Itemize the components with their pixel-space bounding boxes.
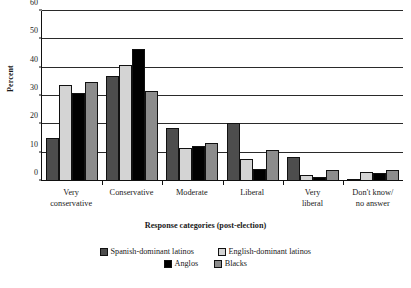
bar bbox=[46, 138, 59, 181]
x-tick-label-line: liberal bbox=[282, 199, 342, 210]
bar bbox=[313, 177, 326, 181]
x-tick-label: Moderate bbox=[162, 188, 222, 209]
bar bbox=[300, 175, 313, 181]
bar bbox=[266, 150, 279, 181]
legend-label: Blacks bbox=[225, 258, 247, 270]
x-tick-label: Veryliberal bbox=[282, 188, 342, 209]
legend-swatch-icon bbox=[100, 248, 108, 256]
bar bbox=[166, 128, 179, 181]
bar bbox=[192, 146, 205, 181]
y-tick-label: 40 bbox=[30, 56, 38, 64]
y-tick-label: 30 bbox=[30, 84, 38, 92]
x-tick-mark bbox=[343, 181, 344, 185]
x-tick-label-line: Don't know/ bbox=[343, 188, 403, 199]
x-axis-title: Response categories (post-election) bbox=[0, 221, 411, 230]
x-tick-label: Conservative bbox=[101, 188, 161, 209]
x-tick-label-line: Conservative bbox=[101, 188, 161, 199]
bar bbox=[373, 173, 386, 182]
bar bbox=[119, 65, 132, 181]
x-tick-label-line: Very bbox=[282, 188, 342, 199]
bar-group bbox=[223, 11, 283, 181]
y-tick-label: 60 bbox=[30, 0, 38, 7]
x-tick-mark bbox=[283, 181, 284, 185]
bar-group bbox=[162, 11, 222, 181]
bar-group bbox=[42, 11, 102, 181]
bar bbox=[132, 49, 145, 181]
legend-swatch-icon bbox=[218, 248, 226, 256]
x-tick-mark bbox=[102, 181, 103, 185]
bar bbox=[386, 170, 399, 181]
legend-item[interactable]: Spanish-dominant latinos bbox=[100, 246, 194, 258]
x-tick-label-line: conservative bbox=[41, 199, 101, 210]
x-tick-label-line: Liberal bbox=[222, 188, 282, 199]
y-tick-label: 50 bbox=[30, 27, 38, 35]
bar bbox=[59, 85, 72, 181]
legend-label: English-dominant latinos bbox=[228, 246, 311, 258]
legend-label: Spanish-dominant latinos bbox=[110, 246, 193, 258]
bar bbox=[85, 82, 98, 181]
bar-group bbox=[102, 11, 162, 181]
bar bbox=[179, 148, 192, 181]
y-tick-label: 20 bbox=[30, 112, 38, 120]
legend-swatch-icon bbox=[214, 260, 222, 268]
bar-group bbox=[343, 11, 403, 181]
y-axis-title: Percent bbox=[6, 49, 15, 109]
x-tick-label: Don't know/no answer bbox=[343, 188, 403, 209]
bar bbox=[347, 179, 360, 181]
bar bbox=[145, 91, 158, 181]
x-tick-mark bbox=[162, 181, 163, 185]
x-tick-label-line: Very bbox=[41, 188, 101, 199]
legend-row-1: Spanish-dominant latinosEnglish-dominant… bbox=[0, 246, 411, 258]
bar-chart-figure: Percent 0102030405060 VeryconservativeCo… bbox=[0, 0, 411, 288]
x-tick-label-line: no answer bbox=[343, 199, 403, 210]
x-tick-label: Veryconservative bbox=[41, 188, 101, 209]
x-tick-label: Liberal bbox=[222, 188, 282, 209]
y-tick-label: 10 bbox=[30, 141, 38, 149]
bar bbox=[326, 170, 339, 181]
bar-groups bbox=[42, 11, 403, 181]
x-tick-mark bbox=[223, 181, 224, 185]
plot-frame: 0102030405060 bbox=[41, 11, 403, 181]
legend-row-2: AnglosBlacks bbox=[0, 258, 411, 270]
bar bbox=[253, 169, 266, 181]
bar bbox=[205, 143, 218, 181]
bar bbox=[72, 93, 85, 181]
bar-group bbox=[283, 11, 343, 181]
bar bbox=[287, 157, 300, 181]
legend: Spanish-dominant latinosEnglish-dominant… bbox=[0, 246, 411, 270]
legend-item[interactable]: English-dominant latinos bbox=[218, 246, 311, 258]
bar bbox=[227, 123, 240, 181]
legend-item[interactable]: Anglos bbox=[164, 258, 198, 270]
plot-area: 0102030405060 bbox=[41, 11, 403, 181]
y-tick-label: 0 bbox=[34, 169, 38, 177]
x-tick-label-line: Moderate bbox=[162, 188, 222, 199]
legend-item[interactable]: Blacks bbox=[214, 258, 247, 270]
bar bbox=[360, 172, 373, 181]
legend-swatch-icon bbox=[164, 260, 172, 268]
bar bbox=[106, 76, 119, 181]
x-axis-tick-labels: VeryconservativeConservativeModerateLibe… bbox=[41, 188, 403, 209]
legend-label: Anglos bbox=[175, 258, 199, 270]
bar bbox=[240, 159, 253, 181]
